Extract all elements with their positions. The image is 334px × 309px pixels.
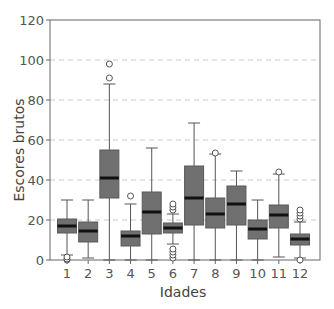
- iqr-box: [185, 166, 204, 225]
- box-8: [206, 150, 225, 260]
- x-tick-label: 5: [148, 266, 156, 281]
- x-axis-title: Idades: [160, 284, 206, 300]
- y-tick-label: 0: [36, 253, 44, 268]
- box-1: [58, 200, 77, 263]
- x-tick-label: 3: [105, 266, 113, 281]
- box-7: [185, 123, 204, 260]
- outlier-point: [170, 201, 176, 207]
- x-tick-label: 12: [292, 266, 309, 281]
- x-tick-label: 2: [84, 266, 92, 281]
- outlier-point: [64, 254, 70, 260]
- outlier-point: [106, 61, 112, 67]
- x-tick-label: 11: [271, 266, 288, 281]
- y-tick-label: 80: [27, 93, 44, 108]
- outlier-point: [212, 150, 218, 156]
- outlier-point: [297, 257, 303, 263]
- x-tick-label: 7: [190, 266, 198, 281]
- iqr-box: [121, 231, 140, 246]
- iqr-box: [100, 150, 119, 198]
- outlier-point: [297, 207, 303, 213]
- box-plot-chart: 020406080100120 123456789101112 Idades E…: [0, 0, 334, 309]
- x-tick-label: 6: [169, 266, 177, 281]
- y-tick-label: 60: [27, 133, 44, 148]
- x-tick-label: 9: [232, 266, 240, 281]
- boxes: [58, 61, 310, 263]
- box-4: [121, 193, 140, 260]
- box-6: [163, 201, 182, 261]
- outlier-point: [170, 246, 176, 252]
- box-9: [227, 171, 246, 260]
- x-tick-label: 4: [126, 266, 134, 281]
- x-tick-label: 8: [211, 266, 219, 281]
- y-axis-title: Escores brutos: [11, 98, 27, 201]
- box-10: [248, 200, 267, 260]
- box-2: [79, 200, 98, 258]
- y-tick-label: 100: [19, 53, 44, 68]
- outlier-point: [128, 193, 134, 199]
- box-3: [100, 61, 119, 260]
- box-11: [269, 169, 288, 257]
- x-tick-label: 10: [249, 266, 266, 281]
- y-tick-label: 40: [27, 173, 44, 188]
- outlier-point: [276, 169, 282, 175]
- x-tick-label: 1: [63, 266, 71, 281]
- outlier-point: [106, 75, 112, 81]
- y-tick-label: 20: [27, 213, 44, 228]
- box-12: [291, 207, 310, 263]
- box-5: [142, 148, 161, 260]
- x-axis: 123456789101112: [63, 260, 308, 281]
- y-tick-label: 120: [19, 13, 44, 28]
